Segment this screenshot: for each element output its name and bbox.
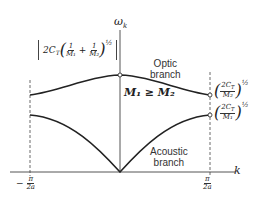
optic-branch-label: Optic branch — [150, 58, 181, 80]
optic-max-point — [118, 73, 122, 77]
mass-condition: M₁ ≥ M₂ — [124, 87, 175, 98]
optic-edge-point — [208, 93, 212, 97]
right-tick-label: π2a — [203, 176, 212, 191]
left-tick-label: − π2a — [16, 176, 35, 191]
acoustic-branch-label: Acoustic branch — [150, 146, 188, 168]
acoustic-edge-point — [208, 113, 212, 117]
acoustic-edge-formula: (2CTM₁)½ — [214, 104, 248, 121]
optic-max-formula: 2CT(1M₁ + 1M₂)½ — [38, 40, 117, 60]
k-axis-label: k — [234, 165, 241, 176]
optic-edge-formula: (2CTM₂)½ — [214, 82, 248, 99]
omega-axis-label: ωk — [114, 16, 127, 30]
